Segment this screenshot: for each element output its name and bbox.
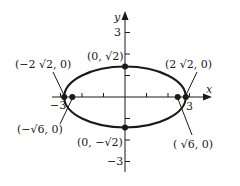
x-axis-label: x: [206, 83, 213, 96]
y-axis-arrow-icon: [122, 11, 129, 20]
label-covertex-bottom: (0, −√2): [77, 136, 123, 149]
y-tick-label-3: 3: [114, 26, 121, 39]
point-focus-left: [69, 94, 75, 100]
ellipse-diagram: y x 3 −3 −3 3 (−2 √2, 0) (2 √2, 0) (0, √…: [0, 0, 240, 186]
y-tick-label-neg3: −3: [107, 155, 123, 168]
label-vertex-right: (2 √2, 0): [165, 58, 212, 71]
x-tick-label-neg3: −3: [50, 99, 66, 112]
label-focus-left: (−√6, 0): [17, 123, 63, 136]
label-vertex-left: (−2 √2, 0): [15, 58, 71, 71]
point-covertex-bottom: [122, 124, 128, 130]
label-focus-right: ( √6, 0): [173, 138, 213, 151]
point-focus-right: [175, 94, 181, 100]
x-tick-label-3: 3: [186, 100, 193, 113]
y-axis-label: y: [113, 11, 121, 24]
point-covertex-top: [122, 64, 128, 70]
label-covertex-top: (0, √2): [87, 50, 124, 63]
